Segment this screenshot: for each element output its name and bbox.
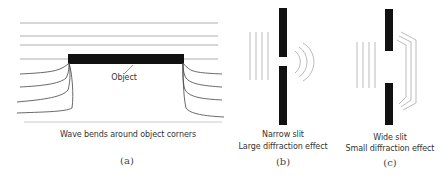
incident-wavefronts-c xyxy=(357,42,375,88)
panel-c-caption-line2: Small diffraction effect xyxy=(346,144,435,153)
panel-b-graphic xyxy=(250,8,314,125)
panel-a-label: (a) xyxy=(120,155,134,166)
slit-upper-barrier xyxy=(385,9,393,51)
diffracted-wavefronts-right xyxy=(183,63,224,117)
diffracted-wavefronts-left xyxy=(17,63,73,113)
object-barrier xyxy=(68,54,184,64)
object-label: Object xyxy=(111,73,136,82)
incident-wavefronts xyxy=(20,23,218,59)
panel-c-caption-line1: Wide slit xyxy=(373,133,406,142)
slit-lower-barrier xyxy=(279,66,287,125)
diffracted-fronts-c xyxy=(397,32,416,110)
incident-wavefronts-b xyxy=(250,32,268,80)
diffracted-arcs-b xyxy=(295,43,314,81)
slit-lower-barrier xyxy=(385,83,393,125)
panel-b-label: (b) xyxy=(276,156,290,167)
panel-c-label: (c) xyxy=(383,157,396,168)
slit-upper-barrier xyxy=(279,8,287,57)
panel-b-caption-line1: Narrow slit xyxy=(262,130,304,139)
panel-a-caption: Wave bends around object corners xyxy=(60,130,196,139)
panel-b-caption-line2: Large diffraction effect xyxy=(238,142,327,151)
panel-c-graphic xyxy=(357,9,416,125)
